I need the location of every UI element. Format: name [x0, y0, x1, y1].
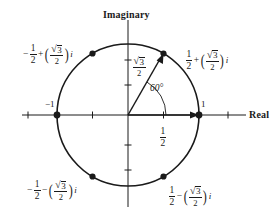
ul-real-num: 1	[30, 44, 37, 55]
ur-operator: +	[193, 56, 200, 66]
lr-operator: −	[176, 192, 183, 202]
lr-paren-open: (	[184, 190, 188, 204]
lr-imaginary-unit: i	[208, 192, 212, 201]
ll-sign: −	[26, 186, 33, 196]
ll-real-den: 2	[34, 191, 41, 201]
imaginary-axis-label: Imaginary	[103, 10, 150, 20]
ll-real-num: 1	[34, 180, 41, 191]
ur-real-num: 1	[186, 50, 193, 61]
complex-plane-unit-circle-figure: Imaginary Real −1 1 1 2 √3 2 60°	[0, 0, 275, 221]
ul-paren-close: )	[64, 48, 68, 62]
ul-paren-open: (	[45, 48, 49, 62]
ll-radicand: 3	[61, 181, 67, 191]
ur-radicand: 3	[212, 50, 218, 60]
real-half-denominator: 2	[160, 138, 167, 148]
ul-radicand: 3	[57, 45, 63, 55]
lr-real-num: 1	[169, 186, 176, 197]
imag-sqrt3-numerator: √3	[133, 56, 146, 68]
real-half-numerator: 1	[160, 127, 167, 138]
lr-imag-den: 2	[192, 198, 198, 207]
ll-paren-open: (	[49, 184, 53, 198]
ul-operator: +	[37, 50, 44, 60]
ur-imaginary-unit: i	[225, 56, 229, 65]
tick-label-imaginary-sqrt3-over-2: √3 2	[132, 51, 146, 77]
real-axis-label: Real	[249, 110, 269, 120]
tick-label-real-negative-one: −1	[45, 100, 55, 109]
ul-imag-num: √3	[50, 44, 63, 56]
point-label-upper-left: − 1 2 + ( √3 2 ) i	[22, 44, 73, 65]
point-real-one-dot	[196, 112, 203, 119]
ur-paren-close: )	[220, 54, 224, 68]
ll-paren-close: )	[68, 184, 72, 198]
lr-real-den: 2	[169, 197, 176, 207]
point-real-negative-one-dot	[54, 112, 61, 119]
point-upper-right-dot	[160, 50, 166, 56]
imag-sqrt3-denominator: 2	[136, 68, 142, 77]
ul-real-den: 2	[30, 55, 37, 65]
point-upper-left-dot	[89, 50, 95, 56]
ll-imag-den: 2	[58, 192, 64, 201]
ul-imag-den: 2	[54, 56, 60, 65]
point-lower-left-dot	[89, 173, 95, 179]
angle-label-60-degrees: 60°	[150, 84, 163, 94]
point-label-lower-left: − 1 2 − ( √3 2 ) i	[26, 180, 77, 201]
point-label-lower-right: 1 2 − ( √3 2 ) i	[168, 180, 211, 207]
ul-sign: −	[22, 50, 29, 60]
ur-imag-num: √3	[206, 50, 219, 62]
ur-paren-open: (	[201, 54, 205, 68]
ll-operator: −	[41, 186, 48, 196]
ll-imaginary-unit: i	[73, 186, 77, 195]
lr-imag-num: √3	[189, 186, 202, 198]
point-label-upper-right: 1 2 + ( √3 2 ) i	[185, 44, 228, 71]
lr-paren-close: )	[203, 190, 207, 204]
ur-imag-den: 2	[209, 62, 215, 71]
ur-real-den: 2	[186, 61, 193, 71]
radicand: 3	[139, 57, 145, 67]
tick-label-real-one: 1	[201, 100, 206, 109]
lr-radicand: 3	[195, 186, 201, 196]
tick-label-real-half: 1 2	[159, 121, 167, 148]
ul-imaginary-unit: i	[69, 50, 73, 59]
ll-imag-num: √3	[54, 180, 67, 192]
point-lower-right-dot	[160, 173, 166, 179]
